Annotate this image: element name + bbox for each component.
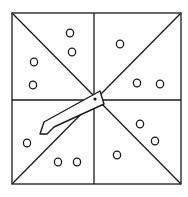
dot-icon <box>116 40 123 48</box>
dot-icon <box>113 151 120 159</box>
dot-icon <box>23 139 30 147</box>
section-bottom-left-lower[interactable] <box>54 158 80 166</box>
dot-icon <box>156 80 163 88</box>
section-bottom-right-upper[interactable] <box>136 120 158 145</box>
section-top-right-lower[interactable] <box>133 79 163 88</box>
pivot-pin-icon <box>93 97 96 100</box>
section-top-right-upper[interactable] <box>116 40 123 48</box>
dot-icon <box>151 137 158 145</box>
dot-icon <box>66 29 73 37</box>
spinner-board <box>0 0 188 197</box>
dot-icon <box>54 158 61 166</box>
dot-icon <box>136 120 143 128</box>
dot-icon <box>29 81 36 89</box>
dot-icon <box>68 48 75 56</box>
section-top-left-lower[interactable] <box>29 58 37 89</box>
dot-icon <box>133 79 140 87</box>
dot-icon <box>30 58 37 66</box>
section-bottom-right-lower[interactable] <box>113 151 120 159</box>
section-top-left-upper[interactable] <box>66 29 75 56</box>
section-bottom-left-upper[interactable] <box>23 139 30 147</box>
dot-icon <box>73 158 80 166</box>
